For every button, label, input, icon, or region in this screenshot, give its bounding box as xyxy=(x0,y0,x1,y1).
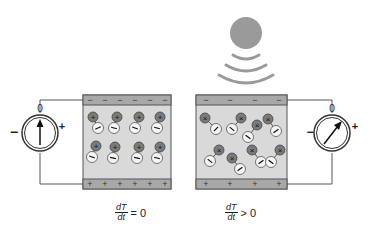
heat-wave-3 xyxy=(219,75,273,83)
right-derivative: dT dt xyxy=(225,203,238,222)
heat-source-sphere xyxy=(230,17,262,49)
left-relation: = 0 xyxy=(131,207,147,219)
svg-text:×: × xyxy=(203,114,208,123)
svg-text:−: − xyxy=(117,95,122,105)
pyroelectric-diagram: −−−−−− ++++++ ++++++++ 0 − + −−−− ++++ ×… xyxy=(0,0,371,238)
svg-text:+: + xyxy=(352,120,358,132)
left-formula: dT dt = 0 xyxy=(115,203,146,222)
svg-text:+: + xyxy=(137,143,142,152)
svg-text:−: − xyxy=(132,95,137,105)
svg-text:+: + xyxy=(203,179,208,189)
left-top-electrode xyxy=(83,95,171,105)
svg-text:+: + xyxy=(117,179,122,189)
svg-text:+: + xyxy=(252,179,257,189)
svg-text:−: − xyxy=(102,95,107,105)
heat-wave-2 xyxy=(226,65,266,71)
svg-text:+: + xyxy=(87,179,92,189)
svg-text:+: + xyxy=(132,179,137,189)
right-bottom-electrode xyxy=(196,179,287,189)
svg-text:×: × xyxy=(255,121,260,130)
left-derivative: dT dt xyxy=(115,203,128,222)
svg-text:+: + xyxy=(147,179,152,189)
svg-text:×: × xyxy=(239,114,244,123)
svg-text:0: 0 xyxy=(329,103,335,114)
svg-text:+: + xyxy=(102,179,107,189)
svg-text:−: − xyxy=(227,95,232,105)
right-meter: 0 − + xyxy=(306,103,358,151)
svg-text:0: 0 xyxy=(37,103,43,114)
svg-text:+: + xyxy=(113,143,118,152)
svg-text:+: + xyxy=(91,113,96,122)
svg-text:+: + xyxy=(227,179,232,189)
heat-source xyxy=(219,17,273,83)
svg-text:−: − xyxy=(87,95,92,105)
svg-text:+: + xyxy=(158,143,163,152)
left-crystal: −−−−−− ++++++ ++++++++ xyxy=(83,95,171,189)
svg-text:+: + xyxy=(158,113,163,122)
svg-text:+: + xyxy=(137,113,142,122)
svg-text:×: × xyxy=(217,146,222,155)
svg-text:×: × xyxy=(278,146,283,155)
svg-text:+: + xyxy=(115,113,120,122)
svg-text:−: − xyxy=(10,124,18,140)
heat-wave-1 xyxy=(233,55,259,59)
svg-text:−: − xyxy=(162,95,167,105)
svg-text:+: + xyxy=(59,120,65,132)
left-bottom-electrode xyxy=(83,179,171,189)
svg-text:+: + xyxy=(162,179,167,189)
svg-text:×: × xyxy=(266,115,271,124)
right-top-electrode xyxy=(196,95,287,105)
svg-text:−: − xyxy=(252,95,257,105)
left-meter: 0 − + xyxy=(10,103,65,151)
right-relation: > 0 xyxy=(241,207,257,219)
svg-text:−: − xyxy=(276,95,281,105)
svg-text:+: + xyxy=(276,179,281,189)
svg-text:+: + xyxy=(94,142,99,151)
svg-text:−: − xyxy=(306,125,313,139)
svg-text:×: × xyxy=(250,146,255,155)
svg-text:−: − xyxy=(203,95,208,105)
right-formula: dT dt > 0 xyxy=(225,203,256,222)
svg-text:−: − xyxy=(147,95,152,105)
right-crystal: −−−− ++++ ×××××××× xyxy=(196,95,287,189)
svg-text:×: × xyxy=(230,154,235,163)
